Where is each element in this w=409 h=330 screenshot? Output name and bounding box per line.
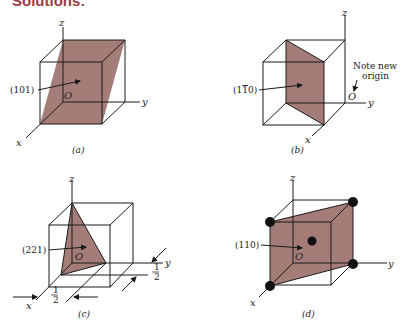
x-label-d: x — [250, 297, 256, 308]
frac-x-den: 2 — [53, 295, 59, 305]
z-label-c: z — [68, 173, 75, 184]
atom — [265, 281, 275, 291]
origin-label-c: O — [75, 251, 83, 262]
plane-label-1bar10: (110) — [233, 85, 257, 95]
frac-y-num: 1 — [154, 262, 160, 272]
y-label-c: y — [164, 257, 171, 268]
panel-c: z y x O 1 2 1 2 (221) (c) — [13, 173, 171, 319]
plane-label-101: (101) — [10, 85, 34, 95]
atom — [348, 259, 358, 269]
origin-label-d: O — [295, 251, 303, 262]
x-label-a: x — [16, 137, 22, 148]
plane-label-110: (110) — [235, 240, 259, 250]
caption-c: (c) — [78, 309, 91, 319]
y-label-a: y — [141, 96, 148, 107]
caption-d: (d) — [302, 309, 315, 319]
note-line-1: Note new — [353, 61, 397, 71]
plane-1-10 — [286, 40, 324, 125]
frac-y-den: 2 — [154, 272, 160, 282]
x-axis-b — [312, 125, 324, 136]
note-arrow — [354, 80, 357, 91]
origin-label-b: O — [348, 91, 356, 102]
x-label-b: x — [305, 134, 311, 145]
origin-label-a: O — [64, 90, 72, 101]
z-label-b: z — [341, 7, 348, 18]
atom — [348, 197, 358, 207]
note-line-2: origin — [362, 71, 389, 81]
atom — [265, 217, 275, 227]
x-label-c: x — [26, 300, 32, 311]
plane-label-221: (221) — [22, 245, 46, 255]
caption-a: (a) — [72, 145, 85, 155]
caption-b: (b) — [291, 145, 304, 155]
panel-a: z y x O (101) (a) — [10, 17, 148, 155]
plane-221 — [61, 203, 106, 275]
y-label-b: y — [367, 97, 374, 108]
frac-x-num: 1 — [53, 285, 59, 295]
z-label-d: z — [289, 172, 296, 183]
miller-planes-figure: z y x O (101) (a) z y x O (110) Note n — [0, 0, 409, 330]
panel-d: z y x O (110) (d) — [235, 172, 394, 319]
atom-center — [308, 237, 317, 246]
z-label-a: z — [58, 17, 65, 28]
panel-b: z y x O (110) Note new origin (b) — [233, 7, 397, 155]
y-label-d: y — [387, 258, 394, 269]
